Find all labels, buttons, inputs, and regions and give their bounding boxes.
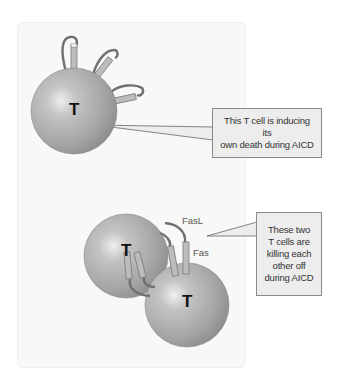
callout-mutual-aicd: These two T cells are killing each other… — [256, 212, 322, 296]
fasl-label: FasL — [182, 215, 203, 226]
callout-mutual-aicd-text: These two T cells are killing each other… — [264, 224, 313, 284]
t-cell-lower-label: T — [182, 292, 192, 312]
callout-pointer-2 — [207, 222, 257, 236]
fas-label: Fas — [193, 247, 209, 258]
t-cell-upper-label: T — [121, 241, 131, 261]
t-cell-self-label: T — [69, 100, 79, 120]
callout-self-aicd: This T cell is inducing its own death du… — [212, 108, 322, 158]
aicd-diagram — [0, 0, 340, 385]
callout-self-aicd-text: This T cell is inducing its own death du… — [219, 115, 315, 151]
